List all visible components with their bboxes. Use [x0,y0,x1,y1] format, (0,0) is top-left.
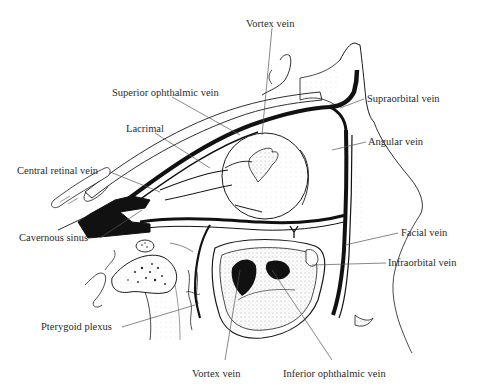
eyeball [160,133,309,219]
label-supraorbital-vein: Supraorbital vein [367,94,440,105]
label-infraorbital-vein: Infraorbital vein [388,258,457,269]
label-angular-vein: Angular vein [368,137,423,148]
label-inferior-ophthalmic-vein: Inferior ophthalmic vein [283,369,386,380]
label-central-retinal-vein: Central retinal vein [17,166,98,177]
leader-facial-vein [345,233,398,245]
label-vortex-vein-bottom: Vortex vein [192,369,241,380]
label-facial-vein: Facial vein [401,228,447,239]
orbital-venous-diagram: Vortex vein Superior ophthalmic vein Sup… [0,0,478,390]
label-cavernous-sinus: Cavernous sinus [19,233,88,244]
label-pterygoid-plexus: Pterygoid plexus [41,322,112,333]
label-vortex-vein-top: Vortex vein [246,19,295,30]
label-lacrimal: Lacrimal [126,124,164,135]
label-superior-ophthalmic-vein: Superior ophthalmic vein [112,88,219,99]
